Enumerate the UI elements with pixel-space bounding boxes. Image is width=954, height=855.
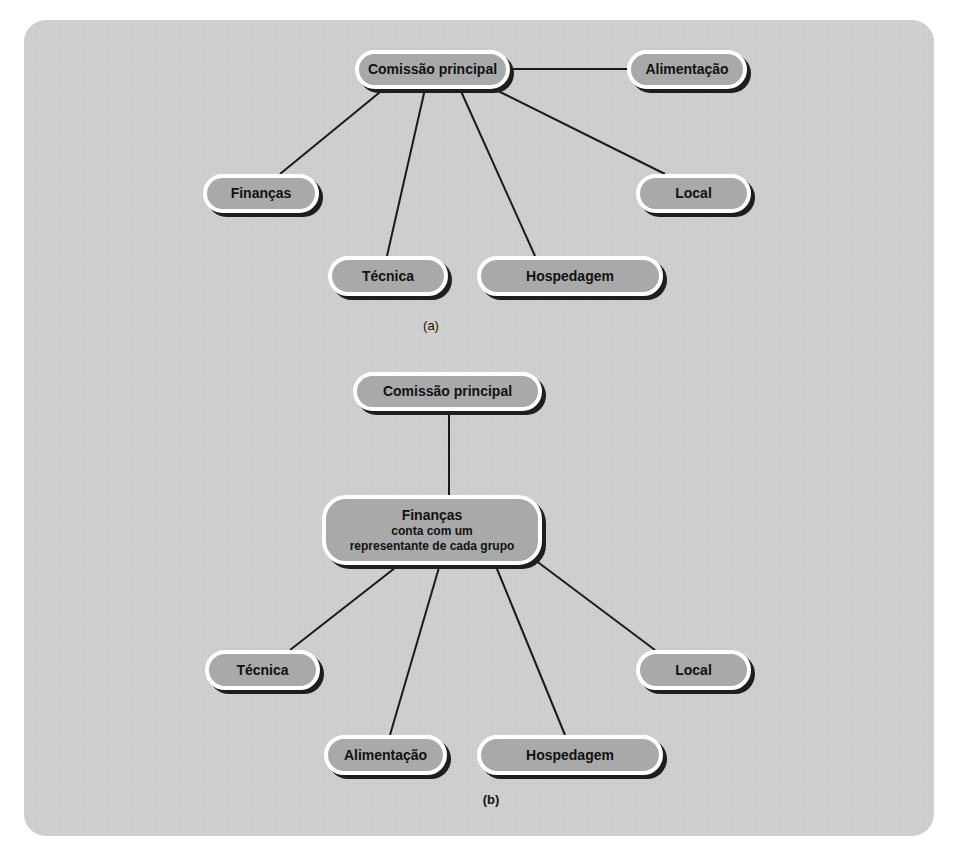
node-label: Hospedagem xyxy=(526,747,614,764)
caption-b: (b) xyxy=(483,792,500,807)
node-title: Finanças xyxy=(402,507,463,524)
node-a-local: Local xyxy=(636,174,751,213)
node-label: Técnica xyxy=(236,662,288,679)
node-a-financas: Finanças xyxy=(203,174,319,213)
node-a-comissao-principal: Comissão principal xyxy=(355,50,510,89)
node-b-tecnica: Técnica xyxy=(205,650,320,690)
connector-lines xyxy=(0,0,954,855)
node-label: Local xyxy=(675,662,712,679)
node-label: Local xyxy=(675,185,712,202)
node-b-local: Local xyxy=(636,650,751,690)
node-b-comissao-principal: Comissão principal xyxy=(353,372,542,411)
node-b-hospedagem: Hospedagem xyxy=(477,735,663,775)
node-subtitle-line1: conta com um xyxy=(391,524,472,539)
node-label: Finanças xyxy=(231,185,292,202)
node-a-alimentacao: Alimentação xyxy=(627,50,747,89)
node-b-alimentacao: Alimentação xyxy=(324,735,447,775)
caption-a: (a) xyxy=(423,318,439,333)
node-label: Comissão principal xyxy=(383,383,512,400)
node-label: Técnica xyxy=(362,268,414,285)
node-label: Comissão principal xyxy=(368,61,497,78)
node-label: Alimentação xyxy=(344,747,427,764)
node-subtitle-line2: representante de cada grupo xyxy=(350,539,515,554)
node-a-tecnica: Técnica xyxy=(328,256,448,296)
node-label: Hospedagem xyxy=(526,268,614,285)
node-a-hospedagem: Hospedagem xyxy=(477,256,663,296)
node-b-financas: Finanças conta com um representante de c… xyxy=(322,495,542,565)
node-label: Alimentação xyxy=(645,61,728,78)
